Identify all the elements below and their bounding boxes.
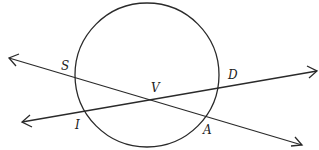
label-S: S	[61, 59, 69, 73]
label-I: I	[74, 118, 80, 132]
circle	[75, 3, 219, 147]
geometry-diagram: S V D I A	[0, 0, 319, 150]
label-A: A	[202, 123, 212, 137]
arrowhead-right-SA-icon	[291, 137, 302, 146]
label-D: D	[227, 68, 238, 82]
label-V: V	[151, 81, 161, 95]
line-ID	[22, 71, 317, 122]
line-SA	[9, 58, 302, 145]
